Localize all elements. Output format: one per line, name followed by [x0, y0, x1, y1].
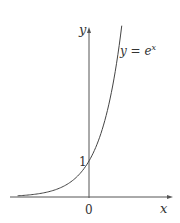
curve-label-sup: x [152, 43, 157, 52]
exp-curve [18, 26, 122, 196]
exponential-graph: y x 0 1 y = ex [0, 0, 180, 223]
curve-label: y = ex [119, 43, 157, 58]
origin-label: 0 [85, 203, 93, 217]
x-axis-label: x [160, 201, 168, 216]
y-axis-label: y [78, 22, 87, 37]
y-intercept-label: 1 [79, 155, 87, 169]
curve-label-main: y = e [119, 44, 152, 58]
